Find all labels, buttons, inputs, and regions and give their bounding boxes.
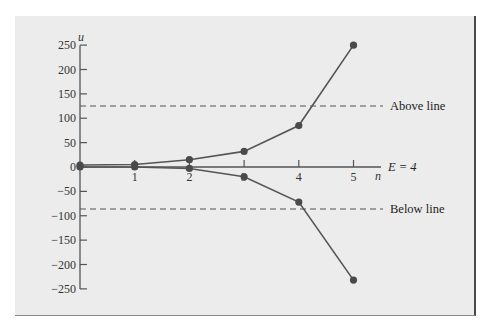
data-point [295, 122, 302, 129]
series-line-upper [80, 45, 354, 165]
x-tick-label: 4 [296, 170, 302, 184]
data-point [186, 156, 193, 163]
y-tick-label: −50 [57, 184, 76, 198]
y-tick-label: 0 [70, 160, 76, 174]
series-line-lower [80, 167, 354, 280]
y-tick-label: 250 [58, 38, 76, 52]
y-tick-label: 150 [58, 87, 76, 101]
y-tick-label: −150 [51, 233, 76, 247]
data-point [295, 199, 302, 206]
data-point [350, 42, 357, 49]
data-point [241, 148, 248, 155]
energy-annotation: E = 4 [387, 160, 417, 174]
data-series [76, 42, 357, 284]
data-point [186, 165, 193, 172]
y-tick-label: 100 [58, 111, 76, 125]
y-axis-label: u [78, 30, 84, 44]
y-tick-label: −250 [51, 282, 76, 296]
data-point [350, 277, 357, 284]
y-tick-label: −200 [51, 258, 76, 272]
y-tick-label: 200 [58, 63, 76, 77]
y-tick-label: −100 [51, 209, 76, 223]
x-tick-label: 5 [351, 170, 357, 184]
x-axis-label: n [375, 169, 381, 183]
above-line-label: Above line [390, 99, 446, 113]
reference-lines [80, 106, 383, 209]
data-point [241, 173, 248, 180]
x-tick-label: 2 [186, 170, 192, 184]
below-line-label: Below line [390, 202, 445, 216]
line-chart: 250200150100500−50−100−150−200−25012345 … [0, 0, 490, 329]
data-point [131, 163, 138, 170]
x-tick-label: 1 [132, 170, 138, 184]
y-tick-label: 50 [64, 136, 76, 150]
data-point [76, 163, 83, 170]
